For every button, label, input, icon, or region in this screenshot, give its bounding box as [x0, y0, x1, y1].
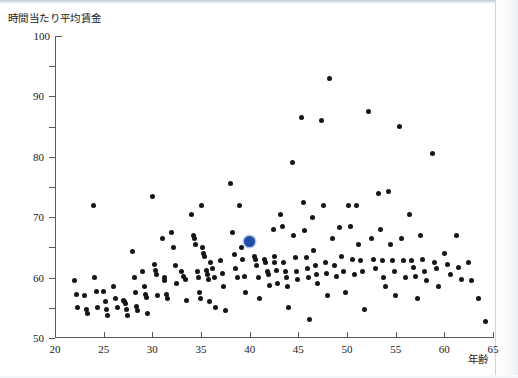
data-point — [123, 301, 128, 306]
data-point — [434, 266, 439, 271]
y-tick-mark: 30 — [49, 247, 55, 248]
y-tick-label: 90 — [33, 90, 44, 102]
data-point — [150, 194, 155, 199]
data-point — [275, 281, 280, 286]
data-point — [399, 236, 404, 241]
data-point — [220, 271, 225, 276]
data-point — [286, 305, 291, 310]
data-point — [291, 233, 296, 238]
x-tick-mark: 45 — [298, 332, 299, 338]
data-point — [213, 305, 218, 310]
data-point — [413, 274, 418, 279]
data-point — [397, 124, 402, 129]
data-point — [299, 115, 304, 120]
x-tick-label: 60 — [439, 343, 450, 355]
data-point — [388, 242, 393, 247]
data-point — [323, 260, 328, 265]
data-point — [418, 233, 423, 238]
highlighted-data-point — [244, 236, 255, 247]
data-point — [82, 293, 87, 298]
data-point — [74, 292, 79, 297]
data-point — [85, 311, 90, 316]
x-tick-mark: 20 — [55, 332, 56, 338]
x-tick-label: 50 — [342, 343, 353, 355]
data-point — [393, 293, 398, 298]
data-point — [94, 289, 99, 294]
data-point — [218, 258, 223, 263]
data-point — [92, 275, 97, 280]
scatter-plot-area: 0102030405060708090100 20253035404550556… — [55, 36, 493, 338]
data-point — [390, 258, 395, 263]
data-point — [165, 296, 170, 301]
data-point — [311, 248, 316, 253]
data-point — [124, 307, 129, 312]
data-point — [339, 254, 344, 259]
data-point — [200, 245, 205, 250]
data-point — [135, 308, 140, 313]
data-point — [442, 251, 447, 256]
data-point — [155, 293, 160, 298]
data-point — [420, 257, 425, 262]
data-point — [171, 245, 176, 250]
data-point — [212, 275, 217, 280]
data-point — [354, 203, 359, 208]
data-point — [169, 230, 174, 235]
x-tick-mark: 55 — [396, 332, 397, 338]
y-tick-label: 100 — [34, 30, 51, 42]
data-point — [125, 313, 130, 318]
data-point — [243, 290, 248, 295]
data-point — [369, 236, 374, 241]
data-point — [403, 275, 408, 280]
data-point — [192, 236, 197, 241]
data-point — [233, 266, 238, 271]
data-point — [415, 296, 420, 301]
y-tick-mark: 70 — [49, 127, 55, 128]
x-tick-mark: 40 — [250, 332, 251, 338]
x-tick-mark: 65 — [493, 332, 494, 338]
data-point — [392, 269, 397, 274]
data-point — [409, 258, 414, 263]
data-point — [341, 269, 346, 274]
data-point — [199, 203, 204, 208]
data-point — [454, 233, 459, 238]
data-point — [242, 274, 247, 279]
data-point — [208, 260, 213, 265]
data-point — [330, 236, 335, 241]
data-point — [371, 257, 376, 262]
data-point — [111, 284, 116, 289]
data-point — [436, 284, 441, 289]
data-point — [343, 290, 348, 295]
data-point — [307, 317, 312, 322]
data-point — [378, 227, 383, 232]
data-point — [386, 189, 391, 194]
x-tick-label: 65 — [488, 343, 499, 355]
data-point — [285, 284, 290, 289]
data-point — [337, 225, 342, 230]
y-tick-mark: 80 — [49, 96, 55, 97]
data-point — [235, 275, 240, 280]
data-point — [133, 290, 138, 295]
data-point — [239, 245, 244, 250]
data-point — [272, 260, 277, 265]
data-point — [174, 281, 179, 286]
data-point — [284, 275, 289, 280]
data-point — [352, 272, 357, 277]
data-point — [267, 283, 272, 288]
data-point — [362, 307, 367, 312]
data-point — [445, 262, 450, 267]
data-point — [476, 296, 481, 301]
y-tick-mark: 10 — [49, 308, 55, 309]
data-point — [373, 266, 378, 271]
data-point — [202, 254, 207, 259]
data-point — [290, 160, 295, 165]
data-point — [321, 203, 326, 208]
data-point — [302, 228, 307, 233]
x-tick-label: 25 — [98, 343, 109, 355]
data-point — [221, 284, 226, 289]
data-point — [376, 191, 381, 196]
y-tick-mark: 100 — [55, 36, 62, 37]
data-point — [91, 203, 96, 208]
y-tick-label: 80 — [33, 151, 44, 163]
data-point — [327, 76, 332, 81]
data-point — [358, 258, 363, 263]
